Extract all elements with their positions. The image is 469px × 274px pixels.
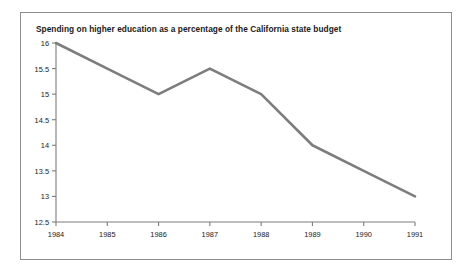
x-axis-tick-label: 1991 [407,230,423,239]
x-axis-tick-label: 1988 [253,230,269,239]
data-series-line [56,43,415,196]
plot-area: 12.51313.51414.51515.5161984198519861987… [0,0,469,274]
y-axis-tick-label: 16 [18,39,49,48]
y-axis-tick-label: 13.5 [18,166,49,175]
y-axis-tick-label: 14.5 [18,115,49,124]
x-axis-tick-label: 1986 [150,230,166,239]
x-axis-tick-label: 1987 [202,230,218,239]
chart-svg [0,0,469,274]
y-axis-tick-label: 15.5 [18,64,49,73]
y-axis-tick-label: 12.5 [18,218,49,227]
y-axis-tick-label: 14 [18,141,49,150]
x-axis-tick-label: 1985 [99,230,115,239]
figure: Spending on higher education as a percen… [0,0,469,274]
y-axis-tick-label: 13 [18,192,49,201]
y-axis-tick-label: 15 [18,90,49,99]
x-axis-tick-label: 1989 [304,230,320,239]
x-axis-tick-label: 1990 [355,230,371,239]
x-axis-tick-label: 1984 [48,230,64,239]
